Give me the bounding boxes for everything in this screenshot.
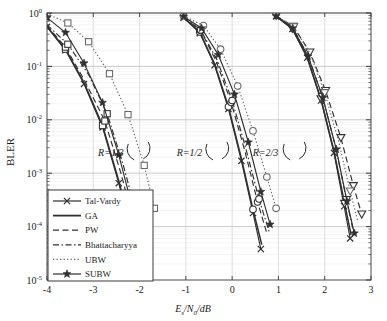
y-axis-title: BLER <box>4 137 16 166</box>
x-tick-label: 1 <box>276 284 281 295</box>
rate-annotation: R=2/3 <box>252 147 279 158</box>
x-tick-label: -2 <box>135 284 143 295</box>
legend-label-PW[interactable]: PW <box>85 225 99 235</box>
bler-vs-esn0-chart: -4-3-2-10123 10010-110-210-310-410-5 R=1… <box>0 0 387 321</box>
legend-label-UBW[interactable]: UBW <box>85 255 107 265</box>
legend-label-SUBW[interactable]: SUBW <box>85 269 112 279</box>
svg-text:BLER: BLER <box>4 137 16 166</box>
legend-label-GA[interactable]: GA <box>85 211 98 221</box>
rate-annotation: R=1/3 <box>97 147 124 158</box>
x-tick-label: 2 <box>322 284 327 295</box>
x-tick-label: 0 <box>230 284 235 295</box>
legend[interactable]: Tal-VardyGAPWBhattacharyyaUBWSUBW <box>48 190 153 281</box>
x-tick-label: -3 <box>89 284 97 295</box>
x-tick-label: -4 <box>43 284 51 295</box>
x-tick-label: -1 <box>182 284 190 295</box>
legend-label-Tal-Vardy[interactable]: Tal-Vardy <box>85 196 121 206</box>
x-tick-label: 3 <box>369 284 374 295</box>
figure-container: -4-3-2-10123 10010-110-210-310-410-5 R=1… <box>0 0 387 321</box>
rate-annotation: R=1/2 <box>176 147 203 158</box>
legend-label-Bhattacharyya[interactable]: Bhattacharyya <box>85 240 137 250</box>
